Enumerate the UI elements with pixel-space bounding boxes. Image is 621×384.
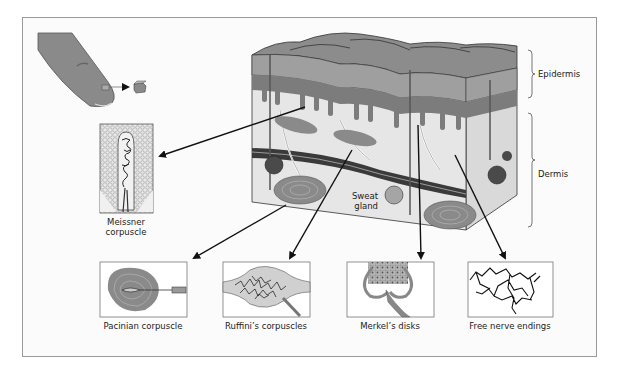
dermis-label: Dermis [538, 169, 569, 179]
merkel-label: Merkel’s disks [360, 321, 420, 331]
dermis-brace [528, 113, 535, 227]
pacinian-panel [100, 262, 187, 317]
epidermis-brace [528, 50, 535, 98]
finger-illustration [38, 33, 146, 107]
free-nerve-panel [468, 262, 553, 317]
free-nerve-label: Free nerve endings [469, 321, 551, 331]
epidermis-label: Epidermis [538, 69, 581, 79]
merkel-panel [347, 262, 434, 317]
sweat-gland-label-line1: Sweat [352, 191, 379, 201]
ruffini-label: Ruffini’s corpuscles [225, 321, 308, 331]
pacinian-label: Pacinian corpuscle [104, 321, 183, 331]
meissner-label-line2: corpuscle [106, 227, 147, 237]
ruffini-panel [223, 262, 310, 317]
diagram-svg: Meissner corpuscle [0, 0, 621, 384]
meissner-label-line1: Meissner [107, 217, 145, 227]
diagram-stage: Meissner corpuscle [0, 0, 621, 384]
meissner-inset [100, 124, 153, 213]
sweat-gland-label-line2: gland [354, 201, 378, 211]
